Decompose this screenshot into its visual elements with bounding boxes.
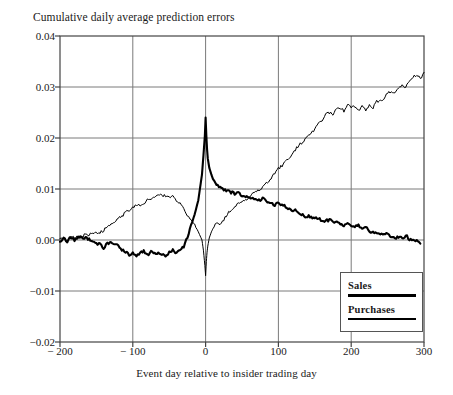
chart-title: Cumulative daily average prediction erro… — [33, 11, 235, 24]
y-tick-label: −0.01 — [9, 285, 55, 297]
legend-item-sales: Sales — [348, 280, 418, 297]
legend-swatch-sales — [348, 294, 416, 297]
chart-legend: Sales Purchases — [340, 272, 423, 332]
y-axis-tick-labels: −0.02−0.010.000.010.020.030.04 — [5, 0, 55, 395]
x-tick-label: − 200 — [47, 345, 72, 357]
legend-label-purchases: Purchases — [348, 304, 418, 316]
x-tick-label: − 100 — [120, 345, 145, 357]
y-tick-label: 0.03 — [9, 81, 55, 93]
x-tick-label: 0 — [203, 345, 209, 357]
legend-swatch-purchases — [348, 318, 416, 320]
legend-item-purchases: Purchases — [348, 304, 418, 320]
y-tick-label: 0.04 — [9, 30, 55, 42]
plot-area — [0, 0, 453, 395]
legend-label-sales: Sales — [348, 280, 418, 292]
x-tick-label: 100 — [270, 345, 287, 357]
x-tick-label: 200 — [343, 345, 360, 357]
y-tick-label: 0.00 — [9, 234, 55, 246]
y-tick-label: 0.01 — [9, 183, 55, 195]
x-tick-label: 300 — [416, 345, 433, 357]
x-axis-label: Event day relative to insider trading da… — [0, 367, 453, 379]
data-series — [60, 72, 424, 275]
chart-figure: Cumulative daily average prediction erro… — [0, 0, 453, 395]
y-tick-label: 0.02 — [9, 132, 55, 144]
